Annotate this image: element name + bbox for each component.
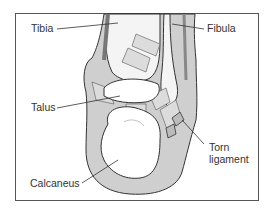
label-talus: Talus bbox=[31, 102, 56, 113]
label-calcaneus: Calcaneus bbox=[30, 178, 80, 189]
label-torn-line1: Torn bbox=[209, 142, 229, 153]
label-tibia: Tibia bbox=[31, 23, 53, 34]
label-torn-line2: ligament bbox=[209, 154, 249, 165]
talus-bone bbox=[104, 79, 159, 103]
label-fibula: Fibula bbox=[207, 23, 236, 34]
calcaneus-bone bbox=[101, 107, 160, 179]
